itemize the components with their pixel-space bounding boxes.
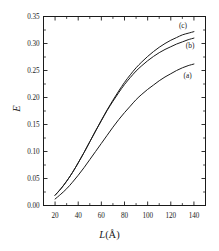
x-tick-label: 140 bbox=[189, 212, 199, 220]
x-tick-label: 80 bbox=[121, 212, 128, 220]
y-tick-label: 0.00 bbox=[8, 202, 40, 210]
y-axis-title-text: E bbox=[11, 105, 22, 111]
curve-b bbox=[55, 38, 194, 195]
y-tick-label: 0.25 bbox=[8, 67, 40, 75]
x-tick-label: 40 bbox=[75, 212, 82, 220]
axes-frame bbox=[44, 17, 206, 206]
y-tick-label: 0.30 bbox=[8, 40, 40, 48]
axis-ticks bbox=[44, 17, 206, 206]
y-tick-label: 0.10 bbox=[8, 148, 40, 156]
data-curves bbox=[55, 32, 194, 199]
x-tick-label: 60 bbox=[98, 212, 105, 220]
x-axis-title-unit: (Å) bbox=[105, 229, 120, 240]
x-axis-title: L(Å) bbox=[0, 229, 219, 240]
curve-c bbox=[55, 32, 194, 196]
y-tick-label: 0.05 bbox=[8, 175, 40, 183]
y-tick-label: 0.35 bbox=[8, 13, 40, 21]
x-tick-label: 100 bbox=[142, 212, 152, 220]
y-tick-label: 0.15 bbox=[8, 121, 40, 129]
x-tick-label: 20 bbox=[52, 212, 59, 220]
curve-label-a: (a) bbox=[184, 71, 192, 80]
x-tick-label: 120 bbox=[166, 212, 176, 220]
curve-label-b: (b) bbox=[186, 41, 195, 50]
y-axis-title: E bbox=[11, 99, 22, 119]
curve-label-c: (c) bbox=[179, 21, 187, 30]
figure-container: 0.000.050.100.150.200.250.300.35 2040608… bbox=[0, 0, 219, 251]
